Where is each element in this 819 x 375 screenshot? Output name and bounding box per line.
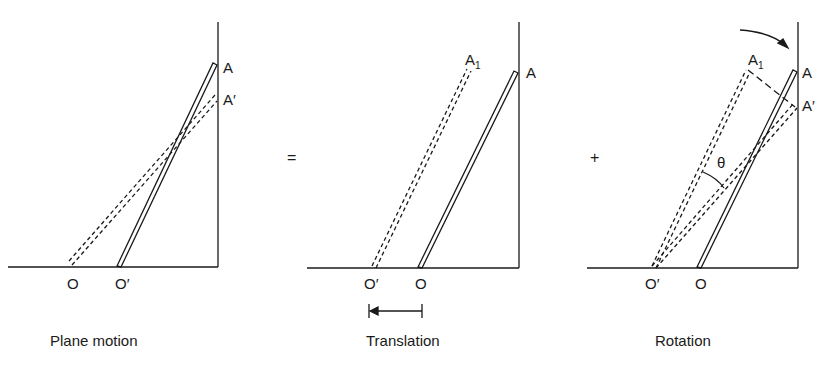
equals-sign: =	[287, 150, 296, 166]
label-O-prime: O′	[645, 276, 659, 291]
rod-solid-3	[697, 70, 797, 268]
label-O-prime: O′	[115, 276, 129, 291]
label-A1: A1	[465, 52, 481, 71]
label-O: O	[415, 276, 427, 291]
rod-solid-2	[418, 71, 518, 268]
label-theta: θ	[717, 155, 725, 170]
label-O: O	[67, 276, 79, 291]
label-O: O	[695, 276, 707, 291]
label-A: A	[802, 65, 812, 80]
label-A-prime: A′	[223, 92, 236, 107]
diagram-canvas	[0, 0, 819, 375]
label-A: A	[223, 60, 233, 75]
plus-sign: +	[590, 150, 599, 166]
label-O-prime: O′	[364, 276, 378, 291]
label-A: A	[526, 65, 536, 80]
label-A-prime: A′	[802, 98, 815, 113]
caption-translation: Translation	[366, 333, 440, 348]
caption-plane-motion: Plane motion	[50, 333, 138, 348]
label-A1: A1	[748, 52, 764, 71]
caption-rotation: Rotation	[655, 333, 711, 348]
rod-solid-1	[117, 63, 217, 267]
